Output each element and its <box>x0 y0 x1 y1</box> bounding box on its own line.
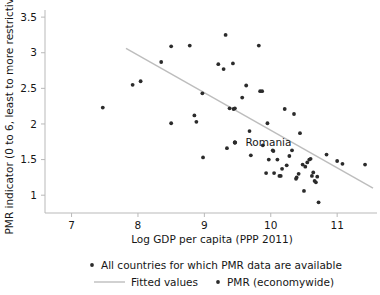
annotated-data-point <box>233 140 237 144</box>
data-point <box>311 171 315 175</box>
data-point <box>224 33 228 37</box>
data-point <box>194 120 198 124</box>
data-point <box>240 96 244 100</box>
data-point <box>315 175 319 179</box>
data-point <box>272 149 276 153</box>
data-point <box>101 106 105 110</box>
y-axis-ticks: 11.522.533.5 <box>20 11 45 201</box>
y-tick-label: 3 <box>30 46 37 58</box>
x-tick-label: 10 <box>264 219 277 231</box>
legend-marker-pmr-economywide <box>216 280 220 284</box>
data-point <box>285 163 289 167</box>
y-tick-label: 2.5 <box>20 82 37 94</box>
data-point <box>260 89 264 93</box>
data-point <box>295 175 299 179</box>
data-point <box>272 171 276 175</box>
data-point <box>257 44 261 48</box>
data-point <box>325 153 329 157</box>
data-point <box>317 200 321 204</box>
legend-label-all-countries: All countries for which PMR data are ava… <box>101 259 342 271</box>
x-tick-label: 7 <box>68 219 75 231</box>
data-point <box>298 131 302 135</box>
data-point <box>310 174 314 178</box>
legend-label-fitted-values: Fitted values <box>131 276 198 288</box>
x-tick-label: 8 <box>135 219 142 231</box>
data-point <box>283 107 287 111</box>
annotation-label-romania: Romania <box>246 136 292 148</box>
chart-figure: 11.522.533.5 7891011 Romania Log GDP per… <box>0 0 380 295</box>
data-point <box>231 62 235 66</box>
data-point <box>216 62 220 66</box>
data-point <box>264 171 268 175</box>
data-point <box>228 106 232 110</box>
data-point <box>276 158 280 162</box>
data-point <box>225 146 229 150</box>
data-point <box>290 148 294 152</box>
y-tick-label: 1 <box>30 189 37 201</box>
data-point <box>131 83 135 87</box>
data-point <box>302 189 306 193</box>
y-tick-label: 2 <box>30 118 37 130</box>
data-point <box>249 153 253 157</box>
data-point <box>309 157 313 161</box>
x-axis-ticks: 7891011 <box>68 213 344 231</box>
data-point <box>248 129 252 133</box>
y-axis-title: PMR indicator (0 to 6, least to more res… <box>3 0 15 235</box>
data-point <box>233 106 237 110</box>
x-tick-label: 11 <box>330 219 343 231</box>
data-point <box>292 112 296 116</box>
scatter-plot: 11.522.533.5 7891011 Romania Log GDP per… <box>0 0 380 295</box>
data-point <box>159 60 163 64</box>
fitted-values-line <box>126 48 373 188</box>
legend-label-pmr-economywide: PMR (economywide) <box>227 276 334 288</box>
y-tick-label: 1.5 <box>20 153 37 165</box>
data-point <box>139 79 143 83</box>
data-point <box>266 121 270 125</box>
data-point <box>188 44 192 48</box>
data-point <box>201 156 205 160</box>
annotation-group: Romania <box>233 136 292 148</box>
data-point <box>287 154 291 158</box>
data-point <box>279 174 283 178</box>
legend-marker-all-countries <box>90 263 94 267</box>
data-point <box>280 167 284 171</box>
chart-legend: All countries for which PMR data are ava… <box>90 259 342 288</box>
data-point <box>303 165 307 169</box>
y-tick-label: 3.5 <box>20 11 37 23</box>
data-point <box>363 163 367 167</box>
data-point <box>297 172 301 176</box>
data-point <box>267 158 271 162</box>
x-axis-title: Log GDP per capita (PPP 2011) <box>131 233 293 245</box>
data-point <box>200 91 204 95</box>
data-point <box>335 159 339 163</box>
data-point <box>341 162 345 166</box>
data-point <box>244 84 248 88</box>
data-point <box>222 67 226 71</box>
data-point <box>169 121 173 125</box>
data-point <box>169 44 173 48</box>
data-point <box>193 114 197 118</box>
scatter-points <box>101 33 367 204</box>
x-tick-label: 9 <box>201 219 208 231</box>
data-point <box>314 180 318 184</box>
